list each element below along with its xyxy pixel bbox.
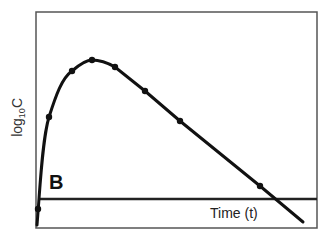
data-points [35, 57, 263, 212]
plot-frame [36, 12, 317, 228]
chart-plot [0, 0, 326, 237]
x-axis-label: Time (t) [210, 205, 258, 221]
data-point [257, 183, 263, 189]
data-point [69, 68, 75, 74]
data-point [112, 64, 118, 70]
data-point [35, 206, 41, 212]
panel-label: B [49, 171, 63, 194]
data-point [142, 88, 148, 94]
data-point [177, 118, 183, 124]
y-axis-label: log10C [9, 87, 28, 147]
data-point [46, 114, 52, 120]
data-point [89, 57, 95, 63]
